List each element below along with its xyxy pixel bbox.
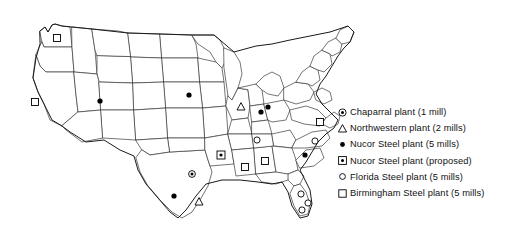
marker-birmingham-california <box>32 99 39 106</box>
marker-florida-steel-tennessee <box>254 137 260 143</box>
marker-nucor-nebraska <box>186 92 191 97</box>
marker-florida-steel-north-carolina <box>312 138 318 144</box>
legend-label-birmingham-steel: Birmingham Steel plant (5 mills) <box>349 188 484 198</box>
nucor-symbol-icon <box>336 138 349 151</box>
legend-item-birmingham-steel: Birmingham Steel plant (5 mills) <box>336 185 512 201</box>
marker-birmingham-mississippi <box>242 164 249 171</box>
marker-nucor-proposed-arkansas <box>217 151 225 159</box>
marker-florida-steel-florida-1 <box>298 191 304 197</box>
marker-birmingham-washington <box>54 35 61 42</box>
marker-nucor-texas <box>171 193 176 198</box>
legend-label-nucor: Nucor Steel plant (5 mills) <box>349 139 459 149</box>
nucor-proposed-symbol-icon <box>336 154 349 167</box>
map-legend: Chaparral plant (1 mill) Northwestern pl… <box>336 104 512 201</box>
legend-item-nucor-proposed: Nucor Steel plant (proposed) <box>336 153 512 169</box>
marker-birmingham-virginia <box>317 119 324 126</box>
legend-item-nucor: Nucor Steel plant (5 mills) <box>336 136 512 152</box>
marker-nucor-ohio <box>265 104 270 109</box>
marker-florida-steel-florida-3 <box>299 207 305 213</box>
florida-steel-symbol-icon <box>336 170 349 183</box>
legend-label-nucor-proposed: Nucor Steel plant (proposed) <box>349 156 472 166</box>
legend-label-florida-steel: Florida Steel plant (5 mills) <box>349 172 463 182</box>
chaparral-symbol-icon <box>336 106 349 119</box>
northwestern-symbol-icon <box>336 122 349 135</box>
marker-nucor-south-carolina <box>302 152 307 157</box>
legend-label-northwestern: Northwestern plant (2 mills) <box>349 123 466 133</box>
marker-nucor-indiana <box>258 109 263 114</box>
marker-birmingham-alabama <box>262 158 269 165</box>
state-boundaries <box>33 24 354 218</box>
legend-item-florida-steel: Florida Steel plant (5 mills) <box>336 169 512 185</box>
birmingham-steel-symbol-icon <box>336 187 349 200</box>
legend-item-chaparral: Chaparral plant (1 mill) <box>336 104 512 120</box>
marker-florida-steel-florida-2 <box>305 200 311 206</box>
legend-item-northwestern: Northwestern plant (2 mills) <box>336 120 512 136</box>
legend-label-chaparral: Chaparral plant (1 mill) <box>349 107 446 117</box>
steel-plant-location-map: Chaparral plant (1 mill) Northwestern pl… <box>0 0 514 238</box>
marker-chaparral-texas <box>189 171 196 178</box>
marker-nucor-utah <box>97 98 102 103</box>
